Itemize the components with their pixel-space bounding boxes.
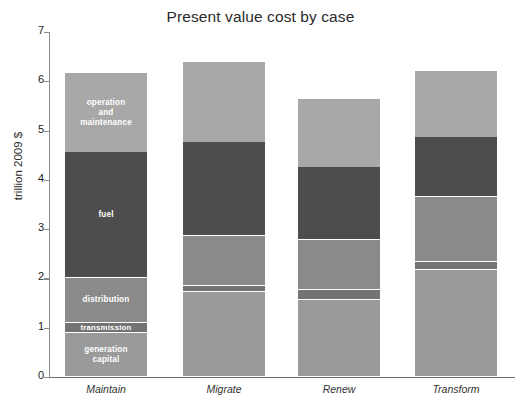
y-tick-mark [44,229,49,230]
y-axis-line [49,32,50,378]
bar-segment-generation-capital[interactable]: generation capital [65,333,147,377]
y-tick-label: 0 [4,369,44,381]
x-axis-line [49,377,515,378]
x-tick-label-renew: Renew [298,383,380,395]
x-tick-label-maintain: Maintain [65,383,147,395]
y-tick-mark [44,278,49,279]
bar-segment-transmission[interactable]: transmission [65,323,147,333]
bar-segment-generation-capital[interactable] [415,270,497,377]
y-tick-label: 4 [4,172,44,184]
bar-transform[interactable] [415,71,497,377]
y-tick-mark [44,328,49,329]
bar-segment-distribution[interactable] [298,240,380,290]
bar-migrate[interactable] [183,62,265,377]
bar-segment-transmission[interactable] [183,286,265,292]
segment-label-operation-and-maintenance: operation and maintenance [80,98,132,127]
bar-segment-distribution[interactable] [183,236,265,286]
y-tick-mark [44,131,49,132]
segment-label-distribution: distribution [83,295,130,305]
x-tick-label-migrate: Migrate [183,383,265,395]
y-tick-mark [44,81,49,82]
y-tick-label: 2 [4,270,44,282]
stacked-bar-chart: Present value cost by case trillion 2009… [0,0,521,404]
bar-segment-transmission[interactable] [298,290,380,300]
segment-label-fuel: fuel [98,210,113,220]
y-tick-label: 1 [4,320,44,332]
y-tick-label: 3 [4,221,44,233]
bar-segment-operation-and-maintenance[interactable] [183,62,265,142]
bar-segment-operation-and-maintenance[interactable] [298,99,380,167]
bar-renew[interactable] [298,99,380,377]
bar-segment-fuel[interactable] [183,142,265,236]
x-tick-label-transform: Transform [415,383,497,395]
y-tick-label: 7 [4,24,44,36]
y-tick-label: 6 [4,73,44,85]
bar-segment-fuel[interactable] [415,137,497,197]
bar-segment-generation-capital[interactable] [298,300,380,377]
bar-segment-distribution[interactable]: distribution [65,278,147,323]
y-tick-mark [44,32,49,33]
bar-maintain[interactable]: generation capitaltransmissiondistributi… [65,73,147,377]
bar-segment-distribution[interactable] [415,197,497,262]
bar-segment-generation-capital[interactable] [183,292,265,377]
y-tick-mark [44,377,49,378]
bar-segment-fuel[interactable]: fuel [65,152,147,278]
segment-label-transmission: transmission [81,323,132,332]
y-tick-label: 5 [4,123,44,135]
bar-segment-fuel[interactable] [298,167,380,240]
bar-segment-operation-and-maintenance[interactable]: operation and maintenance [65,73,147,152]
chart-title: Present value cost by case [0,8,521,26]
y-tick-mark [44,180,49,181]
bar-segment-transmission[interactable] [415,262,497,270]
bar-segment-operation-and-maintenance[interactable] [415,71,497,137]
segment-label-generation-capital: generation capital [84,345,127,364]
